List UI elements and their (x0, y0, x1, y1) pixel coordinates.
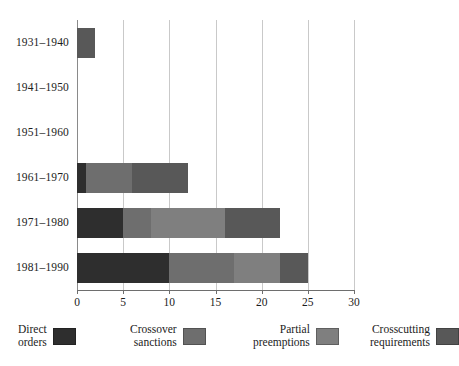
category-label-1961-1970: 1961–1970 (0, 171, 69, 183)
bar-row (77, 253, 354, 283)
legend-label: Directorders (18, 323, 47, 349)
x-tick-label-15: 15 (196, 296, 236, 308)
gridline-10 (169, 20, 170, 290)
gridline-5 (123, 20, 124, 290)
gridline-30 (354, 20, 355, 290)
gridline-15 (216, 20, 217, 290)
bar-track (77, 208, 354, 238)
bar-track (77, 118, 354, 148)
bar-segment (86, 163, 132, 193)
x-tick-mark-0 (77, 290, 78, 294)
legend-item-partial[interactable]: Partialpreemptions (253, 316, 339, 356)
x-tick-mark-10 (169, 290, 170, 294)
bar-row (77, 28, 354, 58)
category-label-1981-1990: 1981–1990 (0, 261, 69, 273)
bar-track (77, 253, 354, 283)
legend-label: Crossoversanctions (130, 323, 177, 349)
legend-item-crossover[interactable]: Crossoversanctions (130, 316, 206, 356)
x-tick-label-25: 25 (288, 296, 328, 308)
category-label-1931-1940: 1931–1940 (0, 36, 69, 48)
category-label-1951-1960: 1951–1960 (0, 126, 69, 138)
bar-segment (123, 208, 151, 238)
bar-segment (77, 208, 123, 238)
x-tick-mark-20 (262, 290, 263, 294)
legend-label: Partialpreemptions (253, 323, 310, 349)
x-tick-label-5: 5 (103, 296, 143, 308)
legend-label: Crosscuttingrequirements (370, 323, 430, 349)
bar-segment (234, 253, 280, 283)
plot-area (77, 20, 354, 290)
legend-label-line1: Crosscutting (370, 323, 430, 336)
x-tick-mark-30 (354, 290, 355, 294)
gridline-0 (77, 20, 78, 290)
legend-swatch-crosscutting-requirements (436, 328, 459, 345)
x-tick-label-10: 10 (149, 296, 189, 308)
category-label-1971-1980: 1971–1980 (0, 216, 69, 228)
legend-label-line1: Direct (18, 323, 47, 336)
bar-segment (77, 253, 169, 283)
x-tick-label-0: 0 (57, 296, 97, 308)
legend-label-line2: preemptions (253, 336, 310, 349)
bar-segment (280, 253, 308, 283)
category-label-1941-1950: 1941–1950 (0, 81, 69, 93)
legend-item-crosscutting[interactable]: Crosscuttingrequirements (370, 316, 459, 356)
bar-row (77, 73, 354, 103)
legend-swatch-crossover-sanctions (183, 328, 206, 345)
bar-track (77, 163, 354, 193)
bar-row (77, 163, 354, 193)
bar-segment (151, 208, 225, 238)
legend-swatch-partial-preemptions (316, 328, 339, 345)
x-tick-label-30: 30 (334, 296, 374, 308)
x-tick-mark-5 (123, 290, 124, 294)
bar-segment (169, 253, 234, 283)
bar-segment (77, 163, 86, 193)
legend-item-direct[interactable]: Directorders (18, 316, 76, 356)
legend-label-line1: Crossover (130, 323, 177, 336)
legend-label-line1: Partial (253, 323, 310, 336)
bar-track (77, 73, 354, 103)
legend-label-line2: sanctions (130, 336, 177, 349)
legend-label-line2: requirements (370, 336, 430, 349)
bar-segment (225, 208, 280, 238)
legend-label-line2: orders (18, 336, 47, 349)
legend-swatch-direct-orders (53, 328, 76, 345)
gridline-25 (308, 20, 309, 290)
chart-legend: DirectordersCrossoversanctionsPartialpre… (18, 316, 378, 360)
bar-segment (77, 28, 95, 58)
bar-row (77, 208, 354, 238)
x-tick-label-20: 20 (242, 296, 282, 308)
bar-segment (132, 163, 187, 193)
gridline-20 (262, 20, 263, 290)
bar-row (77, 118, 354, 148)
x-tick-mark-15 (216, 290, 217, 294)
x-tick-mark-25 (308, 290, 309, 294)
bar-track (77, 28, 354, 58)
